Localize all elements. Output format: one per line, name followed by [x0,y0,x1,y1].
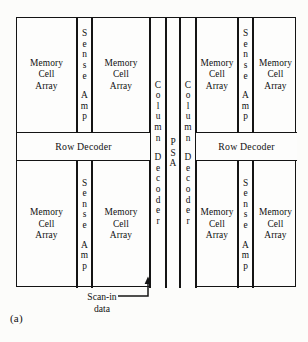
block-label: Memory Cell Array [201,58,234,92]
row-decoder-right: Row Decoder [196,132,297,161]
memory-chip-floorplan: Memory Cell Array SenseAmp Memory Cell A… [16,17,296,287]
sense-amp-vertical-label: SenseAmp [242,178,249,272]
sense-amp-vertical-label: SenseAmp [81,178,88,272]
memory-cell-array-top-right-1: Memory Cell Array [196,18,238,132]
psa-vertical-label: PSA [170,137,177,169]
column-decoder-right: ColumnDecoder [180,18,196,288]
figure-page: Memory Cell Array SenseAmp Memory Cell A… [0,0,308,342]
memory-cell-array-top-left-1: Memory Cell Array [17,18,77,132]
memory-cell-array-top-right-2: Memory Cell Array [253,18,297,132]
memory-cell-array-bottom-left-1: Memory Cell Array [17,161,77,288]
sense-amp-bottom-right: SenseAmp [238,161,253,288]
memory-cell-array-bottom-left-2: Memory Cell Array [92,161,150,288]
block-label: Memory Cell Array [30,58,63,92]
column-decoder-vertical-label: ColumnDecoder [184,80,191,227]
block-label: Memory Cell Array [105,207,138,241]
row-decoder-label: Row Decoder [218,141,274,152]
sense-amp-bottom-left: SenseAmp [77,161,92,288]
memory-cell-array-bottom-right-1: Memory Cell Array [196,161,238,288]
block-label: Memory Cell Array [105,58,138,92]
row-decoder-label: Row Decoder [55,141,111,152]
sense-amp-vertical-label: SenseAmp [242,28,249,122]
row-decoder-left: Row Decoder [17,132,150,161]
block-label: Memory Cell Array [30,207,63,241]
sense-amp-top-left: SenseAmp [77,18,92,132]
block-label: Memory Cell Array [201,207,234,241]
column-decoder-vertical-label: ColumnDecoder [154,80,161,227]
psa-block: PSA [166,18,180,288]
figure-caption: (a) [10,312,23,324]
column-decoder-left: ColumnDecoder [150,18,166,288]
block-label: Memory Cell Array [259,207,292,241]
sense-amp-vertical-label: SenseAmp [81,28,88,122]
sense-amp-top-right: SenseAmp [238,18,253,132]
block-label: Memory Cell Array [259,58,292,92]
memory-cell-array-top-left-2: Memory Cell Array [92,18,150,132]
memory-cell-array-bottom-right-2: Memory Cell Array [253,161,297,288]
